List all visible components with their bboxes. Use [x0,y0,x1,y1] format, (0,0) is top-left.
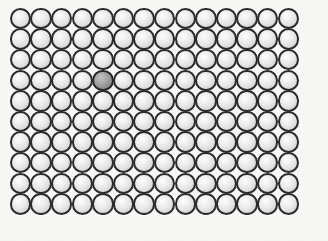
host-atom [113,131,135,153]
host-atom [278,152,300,174]
host-atom [30,8,52,30]
host-atom [72,28,94,50]
host-atom [154,173,176,195]
host-atom [133,49,155,71]
host-atom [236,49,258,71]
host-atom [195,49,217,71]
host-atom [72,49,94,71]
host-atom [216,152,238,174]
host-atom [51,131,73,153]
host-atom [113,28,135,50]
host-atom [195,152,217,174]
host-atom [257,152,279,174]
host-atom [92,90,114,112]
host-atom [216,131,238,153]
host-atom [154,49,176,71]
host-atom [92,8,114,30]
host-atom [216,90,238,112]
host-atom [10,111,32,133]
host-atom [51,28,73,50]
host-atom [236,8,258,30]
host-atom [175,111,197,133]
host-atom [72,173,94,195]
host-atom [257,131,279,153]
host-atom [278,49,300,71]
host-atom [30,173,52,195]
host-atom [195,90,217,112]
host-atom [72,70,94,92]
host-atom [133,173,155,195]
host-atom [133,152,155,174]
host-atom [195,193,217,215]
host-atom [72,152,94,174]
host-atom [278,193,300,215]
host-atom [72,8,94,30]
host-atom [216,70,238,92]
host-atom [113,8,135,30]
host-atom [51,90,73,112]
host-atom [175,131,197,153]
host-atom [236,131,258,153]
host-atom [236,70,258,92]
host-atom [216,111,238,133]
host-atom [30,111,52,133]
host-atom [30,49,52,71]
host-atom [10,152,32,174]
host-atom [51,8,73,30]
host-atom [10,28,32,50]
host-atom [51,152,73,174]
host-atom [154,90,176,112]
host-atom [113,49,135,71]
host-atom [278,28,300,50]
host-atom [278,90,300,112]
host-atom [133,131,155,153]
host-atom [113,90,135,112]
host-atom [133,28,155,50]
host-atom [175,90,197,112]
host-atom [72,193,94,215]
host-atom [175,152,197,174]
host-atom [278,173,300,195]
host-atom [236,193,258,215]
host-atom [154,152,176,174]
host-atom [133,90,155,112]
host-atom [154,70,176,92]
host-atom [257,90,279,112]
host-atom [154,131,176,153]
host-atom [278,70,300,92]
host-atom [92,173,114,195]
host-atom [30,131,52,153]
host-atom [113,70,135,92]
host-atom [10,131,32,153]
host-atom [133,8,155,30]
host-atom [236,152,258,174]
host-atom [175,70,197,92]
host-atom [175,8,197,30]
host-atom [30,70,52,92]
host-atom [92,193,114,215]
host-atom [72,90,94,112]
host-atom [257,173,279,195]
host-atom [236,28,258,50]
host-atom [236,111,258,133]
host-atom [216,8,238,30]
host-atom [154,28,176,50]
host-atom [30,193,52,215]
host-atom [10,8,32,30]
host-atom [195,70,217,92]
host-atom [216,49,238,71]
host-atom [257,8,279,30]
host-atom [30,152,52,174]
host-atom [113,152,135,174]
host-atom [10,90,32,112]
host-atom [154,8,176,30]
host-atom [195,111,217,133]
host-atom [30,90,52,112]
host-atom [92,131,114,153]
host-atom [133,193,155,215]
host-atom [92,111,114,133]
host-atom [257,111,279,133]
host-atom [72,131,94,153]
host-atom [278,131,300,153]
host-atom [278,111,300,133]
